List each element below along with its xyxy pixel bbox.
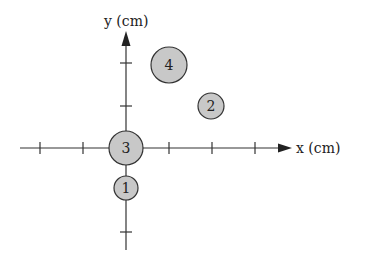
particle-2: 2 — [198, 93, 224, 119]
x-axis-label: x (cm) — [296, 140, 340, 156]
particle-2-label: 2 — [207, 98, 216, 114]
particle-4-label: 4 — [165, 57, 174, 73]
x-axis-arrowhead — [278, 144, 292, 153]
particle-1: 1 — [114, 176, 138, 200]
coordinate-diagram: x (cm) y (cm) 4 2 3 1 — [0, 0, 367, 266]
particle-3-label: 3 — [122, 140, 131, 156]
particle-1-label: 1 — [122, 180, 131, 196]
particle-3: 3 — [109, 131, 143, 165]
y-axis-arrowhead — [122, 31, 131, 46]
particle-4: 4 — [151, 47, 187, 83]
y-axis-label: y (cm) — [103, 13, 148, 29]
